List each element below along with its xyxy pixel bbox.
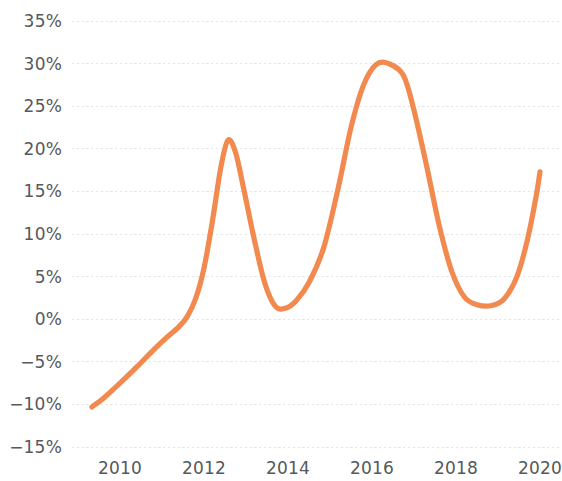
x-tick-label: 2012 (182, 458, 226, 478)
x-axis: 201020122014201620182020 (0, 0, 562, 481)
x-tick-label: 2020 (518, 458, 562, 478)
x-tick-label: 2016 (350, 458, 394, 478)
x-tick-label: 2018 (434, 458, 478, 478)
line-chart: 35%30%25%20%15%10%5%0%−5%−10%−15% 201020… (0, 0, 562, 481)
x-tick-label: 2010 (98, 458, 142, 478)
x-tick-label: 2014 (266, 458, 310, 478)
